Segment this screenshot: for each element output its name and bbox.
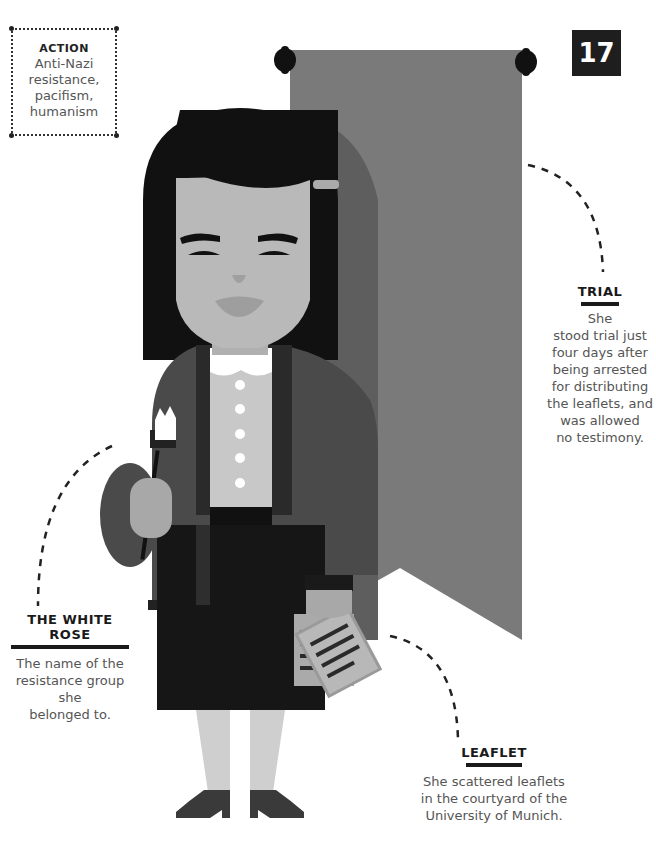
- white-rose-text: The name of the resistance group she bel…: [5, 655, 135, 723]
- action-title: ACTION: [13, 42, 115, 55]
- leaflet-line: She scattered leaflets: [414, 773, 574, 790]
- leaflet-callout: LEAFLET She scattered leaflets in the co…: [414, 745, 574, 824]
- trial-line: stood trial just: [540, 327, 656, 344]
- white-rose-line: resistance group she: [5, 672, 135, 706]
- trial-line: the leaflets, and: [540, 395, 656, 412]
- leaflet-rule: [466, 763, 522, 767]
- leaflet-title: LEAFLET: [414, 745, 574, 760]
- white-rose-line: belonged to.: [5, 706, 135, 723]
- trial-line: for distributing: [540, 378, 656, 395]
- trial-rule: [581, 302, 619, 306]
- leaflet-line: University of Munich.: [414, 807, 574, 824]
- legs: [196, 710, 285, 792]
- trial-text: She stood trial just four days after bei…: [540, 310, 656, 446]
- trial-line: no testimony.: [540, 429, 656, 446]
- trial-line: She: [540, 310, 656, 327]
- leaflet-callout-line: [390, 636, 458, 740]
- white-rose-title: THE WHITE ROSE: [5, 612, 135, 642]
- leaflet-line: in the courtyard of the: [414, 790, 574, 807]
- trial-line: four days after: [540, 344, 656, 361]
- shirt: [196, 345, 292, 525]
- leaflet-text: She scattered leaflets in the courtyard …: [414, 773, 574, 824]
- trial-line: was allowed: [540, 412, 656, 429]
- corner-dot: [9, 133, 14, 138]
- action-text: Anti-Nazi resistance, pacifism, humanism: [13, 56, 115, 120]
- trial-line: being arrested: [540, 361, 656, 378]
- action-line: pacifism,: [13, 88, 115, 104]
- action-line: humanism: [13, 104, 115, 120]
- trial-callout: TRIAL She stood trial just four days aft…: [540, 284, 656, 446]
- trial-title: TRIAL: [540, 284, 656, 299]
- page-number-badge: 17: [572, 30, 621, 76]
- corner-dot: [114, 133, 119, 138]
- action-line: Anti-Nazi: [13, 56, 115, 72]
- white-rose-rule: [11, 645, 129, 649]
- shoes: [176, 790, 304, 818]
- action-box: ACTION Anti-Nazi resistance, pacifism, h…: [11, 28, 117, 136]
- action-line: resistance,: [13, 72, 115, 88]
- white-rose-line: The name of the: [5, 655, 135, 672]
- white-rose-callout: THE WHITE ROSE The name of the resistanc…: [5, 612, 135, 723]
- corner-dot: [9, 26, 14, 31]
- corner-dot: [114, 26, 119, 31]
- trial-callout-line: [528, 165, 603, 272]
